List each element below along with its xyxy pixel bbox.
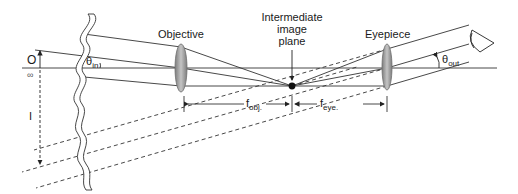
object-label: O xyxy=(27,54,36,66)
objective-lens xyxy=(175,44,187,92)
theta-out-sub: out xyxy=(448,59,459,68)
incoming-rays xyxy=(35,34,181,86)
f-obj-label: fobj. xyxy=(246,97,262,111)
focal-point xyxy=(289,83,296,90)
theta-in-label: θin xyxy=(86,55,98,69)
intermediate-line-1: Intermediate xyxy=(252,11,332,23)
intermediate-plane-label: Intermediate image plane xyxy=(252,11,332,47)
infinity-symbol: ∞ xyxy=(27,69,33,81)
eye-icon xyxy=(470,30,494,52)
f-eye-dimension xyxy=(295,96,387,112)
intermediate-line-2: image xyxy=(252,23,332,35)
theta-out-label: θout xyxy=(442,53,459,67)
eyepiece-diverging-rays xyxy=(292,49,387,86)
theta-out-arc xyxy=(437,57,439,68)
eyepiece-label: Eyepiece xyxy=(365,28,410,40)
image-label: I xyxy=(29,110,32,122)
f-obj-sub: obj. xyxy=(249,103,262,112)
theta-in-arc xyxy=(100,63,101,68)
f-eye-sub: eye. xyxy=(323,103,338,112)
f-obj-dimension xyxy=(184,96,292,112)
eyepiece-lens xyxy=(382,44,392,90)
intermediate-line-3: plane xyxy=(252,35,332,47)
theta-in-sub: in xyxy=(92,61,98,70)
f-eye-label: feye. xyxy=(320,97,338,111)
break-marks xyxy=(74,14,96,190)
objective-label: Objective xyxy=(158,28,204,40)
objective-converging-rays xyxy=(181,47,292,86)
